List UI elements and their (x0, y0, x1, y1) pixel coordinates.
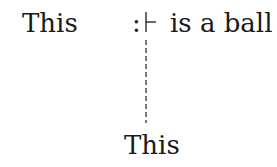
diagram-lines (0, 0, 277, 167)
turnstile-icon (146, 12, 156, 32)
